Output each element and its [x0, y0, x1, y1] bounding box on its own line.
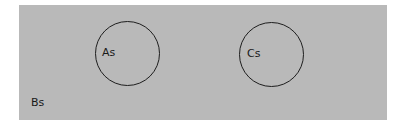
universe-label: Bs — [31, 97, 44, 108]
set-c-label: Cs — [247, 48, 260, 59]
set-a-label: As — [102, 47, 115, 58]
universe-set-region — [19, 5, 387, 120]
